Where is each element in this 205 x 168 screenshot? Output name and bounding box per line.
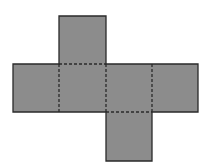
face-center-right	[106, 64, 152, 112]
face-right	[152, 64, 198, 112]
face-top	[59, 16, 106, 64]
face-left	[13, 64, 59, 112]
cube-net-diagram	[0, 0, 205, 168]
face-bottom	[106, 112, 152, 161]
face-center-left	[59, 64, 106, 112]
